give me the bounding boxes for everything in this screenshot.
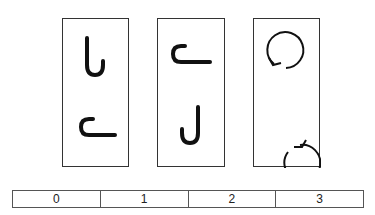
figure-panel-3: [253, 18, 320, 167]
vertical-hook-right-icon: [87, 38, 103, 75]
figure-panel-2: [157, 18, 225, 167]
answer-option-0[interactable]: 0: [13, 191, 101, 207]
figure-panel-1: [62, 18, 129, 167]
horizontal-hook-icon: [81, 119, 115, 135]
answer-option-3[interactable]: 3: [276, 191, 363, 207]
answer-option-1[interactable]: 1: [101, 191, 189, 207]
horizontal-hook-icon: [173, 46, 210, 62]
j-hook-icon: [182, 107, 198, 143]
circle-arrow-counterclockwise-icon: [267, 32, 303, 68]
circle-arrow-clockwise-icon: [284, 140, 320, 168]
answer-option-2[interactable]: 2: [189, 191, 277, 207]
answer-options-bar: 0 1 2 3: [12, 190, 364, 208]
